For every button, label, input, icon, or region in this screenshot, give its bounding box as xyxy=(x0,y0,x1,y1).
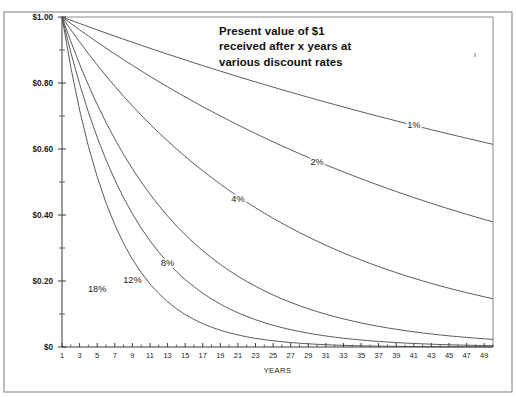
series-label-2pct: 2% xyxy=(310,157,323,167)
series-label-4pct: 4% xyxy=(231,194,244,204)
y-axis-tick-label: $0.80 xyxy=(33,79,54,88)
x-axis-tick-label: 45 xyxy=(445,351,453,360)
y-axis-tick-label: $1.00 xyxy=(33,13,54,22)
x-axis-tick-label: 15 xyxy=(181,351,189,360)
x-axis-tick-label: 27 xyxy=(287,351,295,360)
x-axis-tick-label: 49 xyxy=(480,351,488,360)
x-axis-tick-label: 17 xyxy=(199,351,207,360)
x-axis-tick-label: 11 xyxy=(146,351,154,360)
x-axis-tick-label: 7 xyxy=(113,351,117,360)
x-axis-tick-label: 21 xyxy=(234,351,242,360)
chart-title-line-3: various discount rates xyxy=(219,55,469,70)
x-axis-tick-label: 39 xyxy=(392,351,400,360)
x-axis-tick-label: 23 xyxy=(251,351,259,360)
x-axis-tick-label: 43 xyxy=(427,351,435,360)
x-axis-tick-label: 35 xyxy=(357,351,365,360)
x-axis-tick-label: 1 xyxy=(60,351,64,360)
y-axis-tick-label: $0 xyxy=(44,343,54,352)
x-axis-tick-label: 37 xyxy=(375,351,383,360)
chart-title-line-2: received after x years at xyxy=(219,39,469,54)
x-axis-tick-label: 13 xyxy=(163,351,171,360)
x-axis-tick-label: 33 xyxy=(339,351,347,360)
x-axis-labels: 1357911131517192123252729313335373941434… xyxy=(60,351,488,360)
x-axis-tick-label: 19 xyxy=(216,351,224,360)
x-axis-title: YEARS xyxy=(264,366,292,375)
x-axis-tick-label: 25 xyxy=(269,351,277,360)
y-axis-labels: $0$0.20$0.40$0.60$0.80$1.00 xyxy=(33,13,54,352)
y-axis-tick-label: $0.20 xyxy=(33,277,54,286)
x-axis-tick-label: 9 xyxy=(130,351,134,360)
series-label-1pct: 1% xyxy=(407,120,420,130)
series-label-8pct: 8% xyxy=(161,258,174,268)
x-axis-title-text: YEARS xyxy=(264,366,292,375)
x-axis-tick-label: 5 xyxy=(95,351,99,360)
y-axis-tick-label: $0.40 xyxy=(33,211,54,220)
chart-title: Present value of $1 received after x yea… xyxy=(219,24,469,70)
chart-title-line-1: Present value of $1 xyxy=(219,24,469,39)
x-axis-tick-label: 47 xyxy=(462,351,470,360)
x-axis-tick-label: 41 xyxy=(410,351,418,360)
x-axis-tick-label: 29 xyxy=(304,351,312,360)
x-axis-tick-label: 3 xyxy=(78,351,82,360)
series-label-18pct: 18% xyxy=(88,284,106,294)
scan-speck xyxy=(474,53,476,57)
present-value-chart-figure: $0$0.20$0.40$0.60$0.80$1.00 135791113151… xyxy=(0,0,516,397)
series-label-12pct: 12% xyxy=(123,275,141,285)
x-axis-tick-label: 31 xyxy=(322,351,330,360)
y-axis-tick-label: $0.60 xyxy=(33,145,54,154)
